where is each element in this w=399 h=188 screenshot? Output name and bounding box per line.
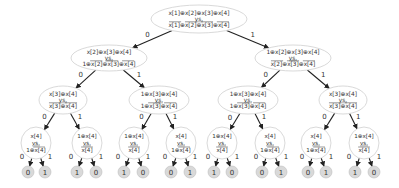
edge-label: 0 xyxy=(228,114,232,122)
leaf-edge xyxy=(92,158,95,166)
leaf-value: 0 xyxy=(141,169,145,177)
leaf-node: 1 xyxy=(118,166,130,178)
leaf-node: 1 xyxy=(71,166,83,178)
leaf-node: 1 xyxy=(39,166,51,178)
leaf-edge-label: 0 xyxy=(206,153,210,161)
tree-node-n14: 1⊕x[4]vs.x[4] xyxy=(349,127,379,159)
leaf-edge-label: 0 xyxy=(254,153,258,161)
edge-label: 1 xyxy=(250,31,254,39)
leaf-value: 1 xyxy=(279,169,283,177)
leaf-node: 1 xyxy=(275,166,287,178)
leaf-value: 0 xyxy=(230,169,234,177)
node-expression: 1⊕x[4] xyxy=(124,133,143,139)
leaf-edge xyxy=(173,158,176,166)
vs-label: vs. xyxy=(218,140,226,146)
edge-n2-n6 xyxy=(307,70,329,88)
node-expression: x[1]⊕x[2]⊕x[3]⊕x[4] xyxy=(168,22,229,28)
node-expression: 1⊕x[2]⊕x[3]⊕x[4] xyxy=(82,61,135,67)
vs-label: vs. xyxy=(312,140,320,146)
tree-node-n3: x[3]⊕x[4]vs.x[3]⊕x[4] xyxy=(39,86,87,114)
edge-n0-n1 xyxy=(133,31,173,48)
tree-node-n4: 1⊕x[3]⊕x[4]vs.1⊕x[3]⊕x[4] xyxy=(129,86,189,114)
node-expression: x[3]⊕x[4] xyxy=(329,103,357,109)
leaf-value: 1 xyxy=(122,169,126,177)
vs-label: vs. xyxy=(360,140,368,146)
node-expression: 1⊕x[4] xyxy=(354,133,373,139)
leaf-node: 0 xyxy=(165,166,177,178)
tree-node-n5: 1⊕x[3]⊕x[4]vs.1⊕x[3]⊕x[4] xyxy=(218,86,278,114)
leaf-edge xyxy=(126,158,129,166)
vs-label: vs. xyxy=(32,140,40,146)
leaf-edge-label: 0 xyxy=(20,153,24,161)
nodes-layer: x[1]⊕x[2]⊕x[3]⊕x[4]vs.x[1]⊕x[2]⊕x[3]⊕x[4… xyxy=(21,5,379,159)
node-expression: 1⊕x[4] xyxy=(171,147,190,153)
leaf-edge xyxy=(369,158,372,166)
node-expression: x[4] xyxy=(216,147,227,153)
edge-label: 1 xyxy=(356,113,360,121)
vs-label: vs. xyxy=(83,140,91,146)
node-expression: x[4] xyxy=(358,147,369,153)
edge-n0-n2 xyxy=(227,30,269,48)
leaf-node: 0 xyxy=(137,166,149,178)
edge-label: 0 xyxy=(263,71,267,79)
edge-label: 1 xyxy=(321,71,325,79)
node-expression: 1⊕x[4] xyxy=(77,133,96,139)
node-expression: x[4] xyxy=(128,147,139,153)
leaf-edge-label: 1 xyxy=(329,153,333,161)
leaf-edge-label: 1 xyxy=(146,153,150,161)
edge-label: 1 xyxy=(137,71,141,79)
leaf-edge xyxy=(264,158,266,166)
decision-tree-diagram: 010101010101010101010101010101 x[1]⊕x[2]… xyxy=(0,0,399,188)
vs-label: vs. xyxy=(130,140,138,146)
node-expression: x[4] xyxy=(310,133,321,139)
leaf-edge xyxy=(216,158,218,166)
leaf-edge-label: 0 xyxy=(300,153,304,161)
edge-label: 1 xyxy=(78,113,82,121)
leaf-edge xyxy=(357,158,360,166)
leaf-edge-label: 0 xyxy=(69,153,73,161)
tree-node-n7: x[4]vs.1⊕x[4] xyxy=(21,127,51,159)
leaf-node: 0 xyxy=(90,166,102,178)
leaf-edge xyxy=(186,158,189,166)
node-expression: 1⊕x[4] xyxy=(306,147,325,153)
edge-label: 0 xyxy=(79,71,83,79)
leaf-edge-label: 1 xyxy=(193,153,197,161)
leaf-node: 0 xyxy=(368,166,380,178)
leaf-value: 1 xyxy=(43,169,47,177)
node-expression: x[4] xyxy=(81,147,92,153)
edge-label: 1 xyxy=(173,113,177,121)
node-expression: x[4] xyxy=(175,133,186,139)
leaf-node: 1 xyxy=(208,166,220,178)
edge-label: 0 xyxy=(139,113,143,121)
leaf-edge-label: 1 xyxy=(235,153,239,161)
edge-label: 0 xyxy=(42,113,46,121)
node-expression: x[4] xyxy=(30,133,41,139)
leaf-value: 1 xyxy=(212,169,216,177)
edge-n1-n4 xyxy=(123,70,144,88)
node-expression: x[2]⊕x[3]⊕x[4] xyxy=(271,61,316,67)
leaf-node: 1 xyxy=(320,166,332,178)
tree-node-n9: 1⊕x[4]vs.x[4] xyxy=(119,127,149,159)
leaf-edge xyxy=(227,158,230,166)
tree-node-n1: x[2]⊕x[3]⊕x[4]vs.1⊕x[2]⊕x[3]⊕x[4] xyxy=(71,45,147,71)
leaf-edge-label: 0 xyxy=(347,153,351,161)
leaf-value: 0 xyxy=(372,169,376,177)
tree-node-n11: 1⊕x[4]vs.x[4] xyxy=(207,127,237,159)
node-expression: 1⊕x[4] xyxy=(26,147,45,153)
leaf-node: 1 xyxy=(184,166,196,178)
leaf-value: 1 xyxy=(188,169,192,177)
leaf-edge xyxy=(30,158,32,166)
tree-node-n8: 1⊕x[4]vs.x[4] xyxy=(72,127,102,159)
leaf-edge xyxy=(79,158,82,166)
leaf-edge-label: 0 xyxy=(163,153,167,161)
leaf-value: 0 xyxy=(260,169,264,177)
tree-node-n13: x[4]vs.1⊕x[4] xyxy=(301,127,331,159)
leaf-edge-label: 1 xyxy=(284,153,288,161)
leaf-value: 0 xyxy=(306,169,310,177)
leaves-layer: 0110100110010110 xyxy=(22,166,380,178)
leaf-edge xyxy=(41,158,44,166)
edge-label: 0 xyxy=(145,31,149,39)
leaf-value: 0 xyxy=(94,169,98,177)
leaf-value: 0 xyxy=(169,169,173,177)
leaf-edge-label: 1 xyxy=(48,153,52,161)
